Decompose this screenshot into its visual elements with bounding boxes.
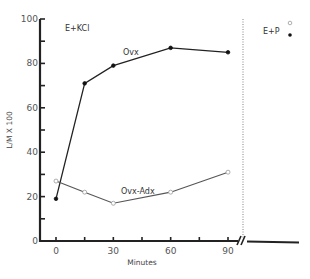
x-axis-continued [247, 242, 299, 243]
series-line-ovx [56, 48, 228, 199]
y-tick-label: 100 [21, 14, 38, 24]
y-axis-title: L/M X 100 [5, 111, 14, 149]
data-point [83, 82, 87, 86]
x-tick-label: 30 [108, 246, 120, 256]
data-point [112, 64, 116, 68]
y-tick-label: 80 [27, 58, 39, 68]
series-label-ovx-adx: Ovx-Adx [121, 187, 155, 196]
legend-filled-circle-icon [288, 33, 292, 37]
data-point [226, 170, 230, 174]
y-tick-label: 40 [27, 147, 39, 157]
x-tick-label: 90 [222, 246, 234, 256]
legend-open-circle-icon [288, 21, 292, 25]
y-tick-label: 60 [27, 103, 39, 113]
data-point [169, 190, 173, 194]
series-label-ovx: Ovx [123, 48, 139, 57]
condition-label-right: E+P [263, 27, 280, 36]
x-tick-label: 0 [53, 246, 59, 256]
data-point [111, 201, 115, 205]
y-tick-label: 20 [27, 192, 39, 202]
data-point [169, 46, 173, 50]
data-point [226, 51, 230, 55]
x-tick-label: 60 [165, 246, 177, 256]
condition-label-left: E+KCl [65, 24, 89, 33]
data-point [54, 179, 58, 183]
y-tick-label: 0 [32, 236, 38, 246]
data-point [54, 197, 58, 201]
data-point [83, 190, 87, 194]
line-chart: 0204060801000306090MinutesL/M X 100E+KCl… [0, 0, 310, 279]
x-axis-title: Minutes [127, 258, 157, 267]
